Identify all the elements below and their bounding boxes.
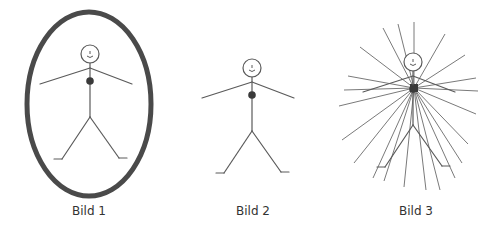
right-leg [252, 131, 281, 172]
caption-bild-2: Bild 2 [213, 204, 293, 218]
right-leg [413, 125, 442, 166]
ray-line [414, 88, 440, 190]
heart [409, 85, 417, 93]
ray-line [339, 88, 414, 106]
left-arm [202, 82, 252, 98]
enclosing-oval [27, 12, 151, 196]
caption-bild-3: Bild 3 [376, 204, 456, 218]
ray-line [414, 88, 476, 114]
right-arm [252, 82, 294, 98]
caption-bild-1: Bild 1 [49, 204, 129, 218]
right-leg [90, 117, 119, 158]
ray-line [414, 88, 468, 144]
left-leg [385, 125, 413, 167]
stick-figure [202, 59, 294, 173]
heart [86, 77, 94, 85]
figure-bild-1 [27, 12, 151, 196]
heart [248, 91, 256, 99]
figure-bild-2 [202, 59, 294, 173]
left-leg [224, 131, 252, 173]
left-arm [40, 68, 90, 84]
stick-figure [40, 45, 132, 159]
ray-line [414, 88, 455, 178]
radiating-lines [339, 22, 478, 190]
figure-bild-3 [339, 22, 478, 190]
left-leg [62, 117, 90, 159]
ray-line [354, 88, 414, 163]
diagram-canvas [0, 0, 496, 231]
right-arm [90, 68, 132, 84]
ray-line [344, 88, 414, 90]
